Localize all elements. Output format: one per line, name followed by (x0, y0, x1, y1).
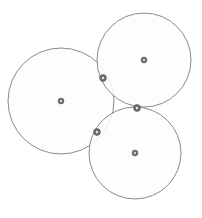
bottom-right-circle-center-marker (132, 150, 138, 156)
center-dot-inner (143, 59, 145, 61)
figure-canvas (0, 0, 202, 218)
circle-outlines-group (8, 13, 191, 199)
center-dot-inner (134, 152, 136, 154)
center-dot-inner (60, 100, 62, 102)
tangency-dot-inner (96, 131, 98, 133)
tangency-dot-inner (136, 107, 138, 109)
tangency-point-left-topright-marker (100, 75, 107, 82)
tangency-dot-inner (102, 77, 104, 79)
top-right-circle-center-marker (141, 57, 147, 63)
tangent-circles-diagram (0, 0, 202, 218)
tangency-point-topright-bottomright-marker (134, 105, 141, 112)
tangency-point-left-bottomright-marker (94, 129, 101, 136)
left-circle-center-marker (58, 98, 64, 104)
